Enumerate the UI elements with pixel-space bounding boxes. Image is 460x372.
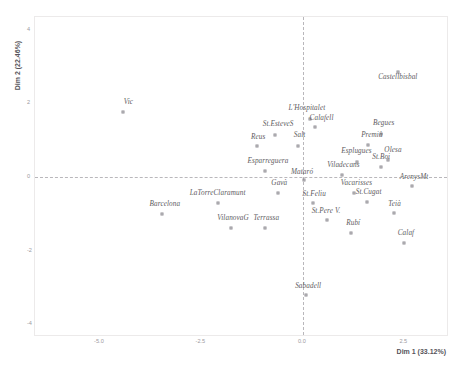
data-point-label: Salt	[294, 131, 306, 139]
x-axis-label: Dim 1 (33.12%)	[0, 348, 460, 355]
data-point[interactable]	[122, 110, 125, 113]
data-point[interactable]	[349, 231, 352, 234]
scatter-plot-figure: CastellbisbalVicL'HospitaletCalafellBegu…	[0, 0, 460, 372]
data-point[interactable]	[256, 145, 259, 148]
data-point[interactable]	[276, 191, 279, 194]
data-point-label: LaTorreClaramunt	[190, 189, 246, 197]
data-point-label: Viladecans	[327, 161, 359, 169]
data-point[interactable]	[216, 201, 219, 204]
data-point-label: St.Pere V.	[312, 207, 341, 215]
data-point-label: Vic	[124, 98, 133, 106]
plot-frame: CastellbisbalVicL'HospitaletCalafellBegu…	[34, 16, 448, 336]
data-point[interactable]	[264, 170, 267, 173]
y-tick-label: -4	[27, 320, 32, 326]
data-point-label: Esplugues	[341, 147, 371, 155]
data-point-label: VilanovaG	[217, 214, 249, 222]
data-point-label: St.Cugat	[356, 188, 382, 196]
y-tick-label: 0	[27, 173, 30, 179]
x-tick-label: -2.5	[196, 338, 206, 344]
data-point-label: Rubí	[346, 219, 360, 227]
data-point-label: Sabadell	[295, 282, 321, 290]
data-point[interactable]	[392, 212, 395, 215]
data-point-label: Terrassa	[253, 214, 279, 222]
y-tick-label: -2	[27, 247, 32, 253]
data-point[interactable]	[161, 212, 164, 215]
data-point[interactable]	[230, 226, 233, 229]
data-point[interactable]	[273, 134, 276, 137]
data-point-label: Premià	[361, 131, 383, 139]
data-point[interactable]	[341, 174, 344, 177]
data-point[interactable]	[379, 166, 382, 169]
plot-area: CastellbisbalVicL'HospitaletCalafellBegu…	[35, 17, 447, 335]
y-tick-label: 4	[27, 26, 30, 32]
data-point-label: St.EsteveS	[263, 120, 294, 128]
data-point[interactable]	[296, 145, 299, 148]
data-point-label: Castellbisbal	[378, 73, 417, 81]
data-point-label: St.Feliu	[303, 190, 326, 198]
data-point[interactable]	[365, 201, 368, 204]
x-tick-label: 0.0	[298, 338, 306, 344]
data-point[interactable]	[326, 219, 329, 222]
data-point-label: Calaf	[398, 229, 414, 237]
data-point[interactable]	[303, 178, 306, 181]
data-point-label: Teià	[388, 200, 401, 208]
data-point-label: Barcelona	[150, 200, 181, 208]
data-point[interactable]	[263, 226, 266, 229]
data-point[interactable]	[352, 192, 355, 195]
data-point-label: Vacarisses	[341, 179, 372, 187]
data-point[interactable]	[411, 184, 414, 187]
y-tick-label: 2	[27, 99, 30, 105]
x-tick-label: -5.0	[94, 338, 104, 344]
data-point-label: St.Boi	[372, 153, 390, 161]
data-point-label: Calafell	[310, 114, 334, 122]
x-tick-label: 2.5	[399, 338, 407, 344]
data-point-label: ArenysMt	[400, 173, 428, 181]
data-point-label: Gavà	[271, 179, 287, 187]
data-point[interactable]	[305, 294, 308, 297]
data-point-label: Reus	[251, 133, 265, 141]
data-point-label: L'Hospitalet	[289, 104, 326, 112]
data-point[interactable]	[402, 241, 405, 244]
y-axis-label: Dim 2 (22.46%)	[14, 16, 21, 116]
data-point[interactable]	[314, 125, 317, 128]
data-point-label: Mataró	[291, 168, 313, 176]
data-point-label: Begues	[373, 119, 394, 127]
reference-line-horizontal	[35, 177, 447, 178]
data-point[interactable]	[311, 202, 314, 205]
data-point-label: Esparreguera	[248, 157, 289, 165]
